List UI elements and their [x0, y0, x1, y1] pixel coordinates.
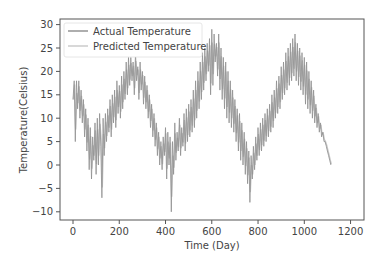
y-tick-label: 25 [40, 43, 53, 54]
y-tick-label: 30 [40, 19, 53, 30]
x-tick-label: 0 [70, 226, 76, 237]
legend-actual-label: Actual Temperature [93, 26, 191, 37]
x-tick-label: 200 [110, 226, 129, 237]
legend: Actual Temperature Predicted Temperature [64, 23, 206, 57]
x-tick-label: 1200 [338, 226, 363, 237]
x-tick-label: 400 [156, 226, 175, 237]
y-tick-label: −10 [32, 206, 53, 217]
y-tick-label: 10 [40, 113, 53, 124]
y-tick-label: 20 [40, 66, 53, 77]
x-tick-label: 800 [248, 226, 267, 237]
x-axis-label: Time (Day) [183, 240, 239, 251]
y-axis-ticks: −10−5051015202530 [32, 19, 60, 217]
y-tick-label: 5 [47, 136, 53, 147]
x-tick-label: 600 [202, 226, 221, 237]
x-tick-label: 1000 [292, 226, 317, 237]
y-axis-label: Temperature(Celsius) [18, 67, 29, 175]
legend-predicted-label: Predicted Temperature [93, 41, 206, 52]
temperature-chart: 020040060080010001200 −10−5051015202530 … [0, 0, 385, 263]
y-tick-label: −5 [38, 183, 53, 194]
x-axis-ticks: 020040060080010001200 [70, 220, 363, 237]
y-tick-label: 0 [47, 160, 53, 171]
y-tick-label: 15 [40, 89, 53, 100]
